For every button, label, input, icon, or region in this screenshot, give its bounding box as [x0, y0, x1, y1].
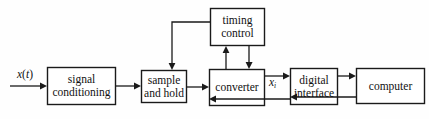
block-signal-conditioning[interactable] — [48, 68, 116, 105]
label-input-signal-paren-close: ) — [29, 68, 33, 80]
connector-input-to-signal-conditioning — [10, 83, 47, 90]
diagram-vector-layer — [0, 0, 429, 119]
label-digital-signal: xi — [269, 76, 276, 90]
block-computer[interactable] — [357, 69, 425, 104]
block-digital-interface[interactable] — [291, 69, 338, 105]
connector-digital-interface-to-computer — [338, 73, 356, 80]
block-sample-and-hold[interactable] — [142, 71, 187, 103]
connector-timing-control-to-converter — [246, 46, 253, 69]
block-timing-control[interactable] — [211, 9, 265, 46]
block-diagram-canvas: signal conditioning sample and hold conv… — [0, 0, 429, 119]
label-input-signal: x(t) — [17, 68, 33, 80]
connector-converter-to-timing-control — [223, 46, 230, 69]
connector-timing-control-to-sample-and-hold — [169, 22, 210, 70]
block-converter[interactable] — [210, 70, 265, 106]
connector-signal-conditioning-to-sample-and-hold — [116, 83, 141, 90]
label-digital-signal-subscript: i — [274, 81, 276, 90]
connector-sample-and-hold-to-converter — [187, 84, 209, 91]
